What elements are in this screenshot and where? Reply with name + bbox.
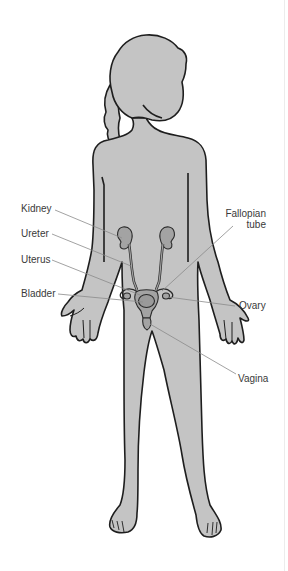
body-diagram: [0, 0, 288, 571]
bladder: [139, 295, 155, 308]
label-uterus: Uterus: [21, 254, 50, 265]
left-ovary: [124, 293, 131, 299]
label-vagina: Vagina: [238, 373, 268, 384]
right-ovary: [163, 293, 170, 299]
label-bladder: Bladder: [21, 288, 55, 299]
label-fallopian-tube: Fallopian tube: [225, 208, 266, 230]
label-fallopian-line1: Fallopian: [225, 208, 266, 219]
head-outline: [110, 35, 187, 121]
label-fallopian-line2: tube: [225, 219, 266, 230]
body-silhouette: [61, 35, 248, 537]
label-ovary: Ovary: [239, 300, 266, 311]
label-ureter: Ureter: [21, 228, 49, 239]
label-kidney: Kidney: [21, 203, 52, 214]
